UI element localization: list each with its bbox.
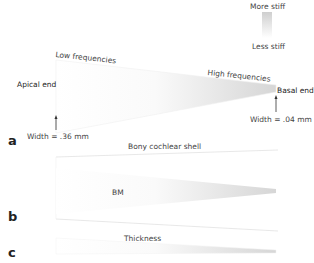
bm-label: BM [112,188,124,197]
basal-arrow-head [275,95,278,99]
shell-line-bottom [56,219,278,231]
shell-line-top [56,150,278,157]
thickness-label: Thickness [124,234,161,243]
legend-less-stiff: Less stiff [252,42,285,51]
thickness-shape-c [56,238,276,254]
panel-letter-c: c [8,245,16,260]
stiffness-legend-bar [262,12,272,38]
basal-width-label: Width = .04 mm [250,115,312,124]
bony-shell-label: Bony cochlear shell [128,142,201,151]
apical-width-label: Width = .36 mm [27,132,89,141]
panel-letter-a: a [8,133,17,148]
legend-more-stiff: More stiff [250,2,285,11]
apical-end-label: Apical end [17,80,56,89]
basilar-membrane-b [56,168,276,214]
panel-letter-b: b [8,209,17,224]
basal-end-label: Basal end [277,86,314,95]
